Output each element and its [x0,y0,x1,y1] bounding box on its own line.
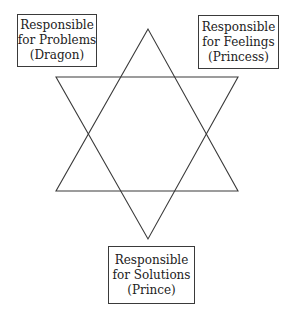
dragon-label-line2: for Problems [18,33,96,48]
princess-role-box: Responsible for Feelings (Princess) [198,15,279,69]
dragon-label-line3: (Dragon) [30,48,85,63]
prince-label-line3: (Prince) [127,283,176,298]
dragon-label-line1: Responsible [20,18,94,33]
princess-label-line2: for Feelings [202,35,274,50]
dragon-role-box: Responsible for Problems (Dragon) [17,14,97,67]
downward-triangle [56,77,238,239]
diagram-canvas: Responsible for Problems (Dragon) Respon… [0,0,290,309]
prince-role-box: Responsible for Solutions (Prince) [108,246,195,304]
princess-label-line3: (Princess) [208,50,269,65]
princess-label-line1: Responsible [202,20,276,35]
prince-label-line1: Responsible [115,253,189,268]
prince-label-line2: for Solutions [113,268,191,283]
